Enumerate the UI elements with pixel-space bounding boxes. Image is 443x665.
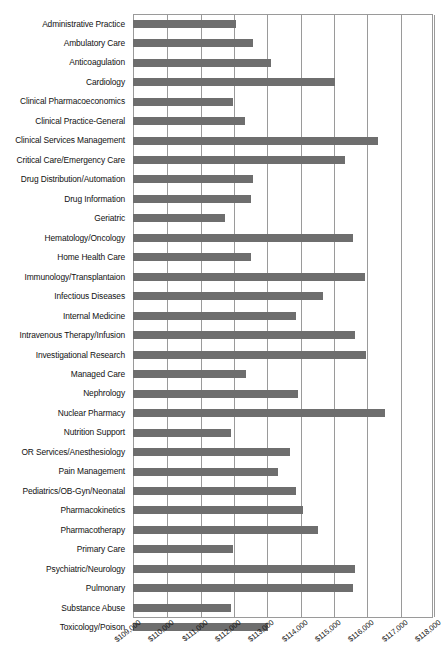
category-labels: Administrative PracticeAmbulatory CareAn…	[0, 14, 129, 618]
bar	[133, 506, 303, 514]
x-tick-label: $110,000	[146, 618, 175, 644]
bar	[133, 39, 253, 47]
category-label: Pediatrics/OB-Gyn/Neonatal	[22, 487, 125, 495]
category-label-row: Intravenous Therapy/Infusion	[0, 326, 129, 345]
bar	[133, 429, 231, 437]
bar-row	[133, 287, 433, 306]
bar-row	[133, 442, 433, 461]
category-label-row: Home Health Care	[0, 248, 129, 267]
bar-row	[133, 14, 433, 33]
bar-row	[133, 540, 433, 559]
category-label: Pain Management	[59, 467, 125, 475]
category-label-row: Administrative Practice	[0, 14, 129, 33]
bar	[133, 98, 233, 106]
category-label-row: Nephrology	[0, 384, 129, 403]
bar-row	[133, 111, 433, 130]
category-label-row: Substance Abuse	[0, 598, 129, 617]
category-label: Drug Information	[64, 195, 125, 203]
bar	[133, 604, 231, 612]
category-label-row: Nuclear Pharmacy	[0, 403, 129, 422]
category-label-row: Critical Care/Emergency Care	[0, 150, 129, 169]
category-label-row: Infectious Diseases	[0, 287, 129, 306]
bar-row	[133, 131, 433, 150]
bar	[133, 20, 236, 28]
category-label: Primary Care	[77, 545, 125, 553]
category-label-row: Cardiology	[0, 72, 129, 91]
bar-row	[133, 423, 433, 442]
x-tick-label: $113,000	[246, 618, 275, 644]
bar-row	[133, 462, 433, 481]
bar	[133, 214, 225, 222]
bar-row	[133, 72, 433, 91]
bar-row	[133, 228, 433, 247]
category-label: Nephrology	[83, 389, 125, 397]
bar	[133, 545, 233, 553]
bar	[133, 78, 335, 86]
x-tick-label: $118,000	[413, 618, 442, 644]
bar	[133, 156, 345, 164]
category-label-row: Ambulatory Care	[0, 33, 129, 52]
bar-row	[133, 92, 433, 111]
bar-row	[133, 306, 433, 325]
category-label-row: Geriatric	[0, 209, 129, 228]
x-tick-label: $111,000	[180, 618, 209, 643]
bar	[133, 331, 355, 339]
bar	[133, 565, 355, 573]
bar-row	[133, 598, 433, 617]
horizontal-bar-chart: Administrative PracticeAmbulatory CareAn…	[0, 0, 443, 665]
bar-row	[133, 267, 433, 286]
category-label: Nutrition Support	[64, 428, 125, 436]
bar	[133, 370, 246, 378]
category-label-row: Clinical Services Management	[0, 131, 129, 150]
bar-row	[133, 345, 433, 364]
category-label: Anticoagulation	[69, 58, 125, 66]
category-label: Nuclear Pharmacy	[58, 409, 125, 417]
category-label: Internal Medicine	[63, 312, 125, 320]
category-label: Substance Abuse	[61, 604, 125, 612]
bar-row	[133, 579, 433, 598]
bar-row	[133, 150, 433, 169]
category-label: Pharmacotherapy	[60, 526, 125, 534]
category-label: Critical Care/Emergency Care	[17, 156, 125, 164]
bar-row	[133, 364, 433, 383]
bar	[133, 584, 353, 592]
x-tick-label: $114,000	[280, 618, 309, 644]
bars-layer	[133, 14, 433, 618]
x-tick-label: $115,000	[313, 618, 342, 644]
bar	[133, 117, 245, 125]
bar	[133, 468, 278, 476]
bar	[133, 312, 296, 320]
category-label: Cardiology	[86, 78, 125, 86]
bar	[133, 390, 298, 398]
bar-row	[133, 189, 433, 208]
x-tick-label: $117,000	[380, 618, 409, 644]
category-label: Home Health Care	[57, 253, 125, 261]
bar	[133, 195, 251, 203]
category-label-row: Managed Care	[0, 364, 129, 383]
bar	[133, 351, 366, 359]
category-label: Ambulatory Care	[64, 39, 125, 47]
bar	[133, 487, 296, 495]
category-label: Immunology/Transplantaion	[24, 273, 125, 281]
bar-row	[133, 481, 433, 500]
bar	[133, 234, 353, 242]
category-label: Clinical Services Management	[15, 136, 125, 144]
bar	[133, 292, 323, 300]
category-label: Hematology/Oncology	[45, 234, 126, 242]
category-label-row: Psychiatric/Neurology	[0, 559, 129, 578]
bar-row	[133, 559, 433, 578]
category-label-row: Hematology/Oncology	[0, 228, 129, 247]
category-label-row: Drug Information	[0, 189, 129, 208]
bar	[133, 253, 251, 261]
bar	[133, 59, 271, 67]
bar	[133, 273, 365, 281]
bar-row	[133, 501, 433, 520]
x-tick-label: $109,000	[113, 618, 143, 644]
category-label-row: Immunology/Transplantaion	[0, 267, 129, 286]
category-label-row: OR Services/Anesthesiology	[0, 442, 129, 461]
bar-row	[133, 520, 433, 539]
bar-row	[133, 170, 433, 189]
gridline	[434, 15, 435, 617]
bar-row	[133, 33, 433, 52]
category-label: Drug Distribution/Automation	[21, 175, 125, 183]
